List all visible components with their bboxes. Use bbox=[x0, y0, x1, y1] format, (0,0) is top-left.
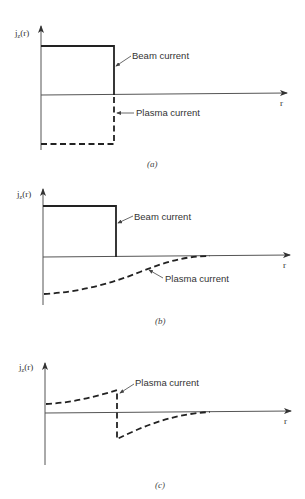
y-axis-label: jz(r) bbox=[18, 362, 33, 373]
panel-a: jz(r) r Beam current Plasma current (a) bbox=[14, 26, 287, 169]
panel-caption: (a) bbox=[147, 159, 158, 169]
beam-current-curve bbox=[41, 46, 114, 95]
plasma-current-curve bbox=[46, 390, 210, 439]
panel-caption: (b) bbox=[155, 316, 166, 326]
x-axis bbox=[45, 411, 291, 413]
panel-b: jz(r) r Beam current Plasma current (b) bbox=[16, 189, 290, 326]
plasma-current-pointer bbox=[120, 384, 134, 393]
beam-current-label: Beam current bbox=[132, 50, 189, 61]
beam-current-label: Beam current bbox=[134, 211, 191, 222]
plasma-current-label: Plasma current bbox=[165, 273, 229, 284]
x-axis bbox=[43, 255, 290, 257]
x-axis-label: r bbox=[284, 416, 287, 426]
y-axis-label: jz(r) bbox=[16, 189, 31, 200]
beam-current-curve bbox=[43, 206, 116, 257]
panel-caption: (c) bbox=[155, 480, 165, 490]
y-axis-label: jz(r) bbox=[14, 28, 29, 39]
beam-current-pointer bbox=[116, 56, 131, 66]
plasma-current-curve bbox=[41, 95, 114, 144]
panel-c: jz(r) r Plasma current (c) bbox=[18, 362, 291, 490]
current-density-figure: jz(r) r Beam current Plasma current (a) … bbox=[0, 0, 305, 499]
plasma-current-pointer bbox=[149, 270, 163, 278]
plasma-current-label: Plasma current bbox=[135, 377, 199, 388]
x-axis bbox=[41, 93, 287, 95]
plasma-current-label: Plasma current bbox=[136, 107, 200, 118]
beam-current-pointer bbox=[118, 216, 133, 223]
x-axis-label: r bbox=[283, 260, 286, 270]
x-axis-label: r bbox=[280, 98, 283, 108]
